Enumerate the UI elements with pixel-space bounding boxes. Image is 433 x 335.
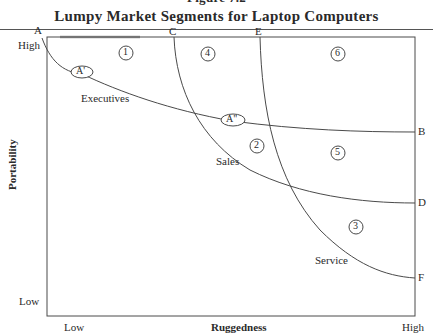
region-1: 1 bbox=[123, 46, 128, 57]
region-5: 5 bbox=[335, 146, 340, 157]
segment-service: Service bbox=[315, 254, 348, 266]
label-b: B bbox=[418, 125, 425, 137]
label-e: E bbox=[255, 25, 262, 37]
y-axis-low: Low bbox=[19, 295, 39, 307]
label-a-double-prime: A" bbox=[226, 113, 237, 124]
y-axis-high: High bbox=[18, 39, 40, 51]
region-2: 2 bbox=[254, 139, 259, 150]
label-d: D bbox=[418, 196, 426, 208]
curve-c-d bbox=[174, 37, 415, 203]
y-axis-title: Portability bbox=[6, 139, 18, 190]
label-a: A bbox=[34, 24, 42, 36]
curve-e-f bbox=[260, 37, 415, 278]
plot-frame bbox=[47, 37, 415, 316]
segment-sales: Sales bbox=[216, 155, 239, 167]
region-6: 6 bbox=[335, 47, 340, 58]
region-4: 4 bbox=[205, 47, 210, 58]
diagram-canvas bbox=[0, 0, 433, 335]
segment-executives: Executives bbox=[81, 92, 129, 104]
label-a-prime: A' bbox=[76, 65, 85, 76]
label-f: F bbox=[418, 271, 424, 283]
x-axis-high: High bbox=[402, 321, 424, 333]
x-axis-low: Low bbox=[64, 321, 84, 333]
region-3: 3 bbox=[353, 220, 358, 231]
label-c: C bbox=[169, 25, 176, 37]
x-axis-title: Ruggedness bbox=[211, 321, 267, 333]
